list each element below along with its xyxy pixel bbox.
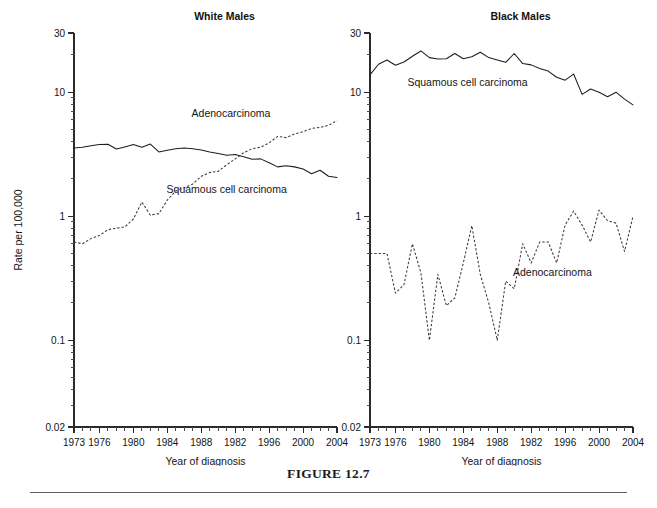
chart-panel-black-males: Black Males301010.10.0219731976198019841… [342,10,645,466]
x-axis-title-black-males: Year of diagnosis [461,455,541,466]
series-annotation-squamous-cell-carcinoma: Squamous cell carcinoma [167,183,287,195]
y-tick-label: 1 [59,211,65,222]
x-tick-label: 1976 [384,437,407,448]
panel-title-black-males: Black Males [490,10,550,22]
figure-container: White Males301010.10.0219731976198019841… [0,0,657,508]
x-tick-label: 1973 [63,437,86,448]
y-tick-label: 30 [54,28,66,39]
x-tick-label: 1980 [418,437,441,448]
figure-plot-area: White Males301010.10.0219731976198019841… [0,0,657,466]
x-tick-label: 2004 [622,437,645,448]
series-annotation-squamous-cell-carcinoma: Squamous cell carcinoma [407,76,527,88]
y-tick-label: 0.02 [46,422,66,433]
y-tick-label: 0.02 [342,422,362,433]
y-axis-title: Rate per 100,000 [12,189,24,270]
y-tick-label: 10 [54,87,66,98]
x-tick-label: 1982 [520,437,543,448]
x-tick-label: 2000 [292,437,315,448]
x-tick-label: 1980 [122,437,145,448]
x-tick-label: 1988 [190,437,213,448]
x-tick-label: 1984 [156,437,179,448]
series-line-squamous-cell-carcinoma [74,144,337,178]
x-tick-label: 1996 [554,437,577,448]
chart-panel-white-males: White Males301010.10.0219731976198019841… [12,10,349,466]
footer-divider [30,492,627,493]
y-tick-label: 30 [350,28,362,39]
y-tick-label: 10 [350,87,362,98]
series-annotation-adenocarcinoma: Adenocarcinoma [192,107,271,119]
x-tick-label: 1982 [224,437,247,448]
x-tick-label: 1996 [258,437,281,448]
series-annotation-adenocarcinoma: Adenocarcinoma [513,266,592,278]
panel-title-white-males: White Males [194,10,255,22]
x-axis-title-white-males: Year of diagnosis [165,455,245,466]
x-tick-label: 1973 [359,437,382,448]
x-tick-label: 1976 [88,437,111,448]
y-tick-label: 0.1 [347,335,361,346]
series-line-adenocarcinoma [370,210,633,340]
figure-caption: FIGURE 12.7 [0,466,657,482]
x-tick-label: 2004 [326,437,349,448]
x-tick-label: 1988 [486,437,509,448]
x-tick-label: 1984 [452,437,475,448]
y-tick-label: 0.1 [51,335,65,346]
x-tick-label: 2000 [588,437,611,448]
y-tick-label: 1 [355,211,361,222]
